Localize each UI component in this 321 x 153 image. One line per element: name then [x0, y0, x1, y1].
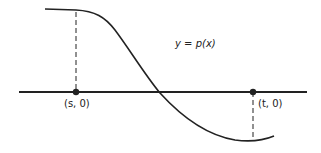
- curve-label: y = p(x): [174, 38, 216, 49]
- point-s: [73, 89, 79, 95]
- point-t: [250, 89, 256, 95]
- point-s-label: (s, 0): [64, 98, 90, 109]
- diagram-canvas: y = p(x) (s, 0) (t, 0): [0, 0, 321, 153]
- curve-p-of-x: [45, 9, 274, 141]
- point-t-label: (t, 0): [258, 98, 283, 109]
